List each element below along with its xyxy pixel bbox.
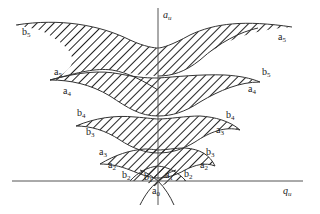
vertical-axis-label: au (163, 10, 172, 22)
horizontal-axis-label: qu (283, 186, 292, 198)
curve-label-b4-right: b4 (226, 110, 235, 122)
curve-label-a0: a0 (152, 186, 160, 198)
curve-label-b2-left: b2 (122, 170, 131, 182)
curve-label-b1: b1 (144, 172, 153, 184)
curve-label-b4-left: b4 (77, 108, 86, 120)
curve-label-a1: a1 (165, 170, 173, 182)
curve-label-b3-right: b3 (206, 147, 215, 159)
curve-label-b5-left: b5 (22, 27, 31, 39)
curve-label-a5-left: a5 (54, 67, 62, 79)
curve-label-a3-right: a3 (216, 125, 224, 137)
curve-label-a4-right: a4 (248, 84, 256, 96)
curve-label-b3-left: b3 (86, 127, 95, 139)
curve-label-b5-right: b5 (262, 67, 271, 79)
stability-diagram (0, 0, 320, 214)
curve-label-a2-right: a2 (200, 160, 208, 172)
curve-label-a2-left: a2 (108, 160, 116, 172)
curve-label-a3-left: a3 (99, 147, 107, 159)
curve-label-b2-right: b2 (184, 169, 193, 181)
curve-label-a4-left: a4 (63, 86, 71, 98)
curve-label-a5-right: a5 (278, 32, 286, 44)
